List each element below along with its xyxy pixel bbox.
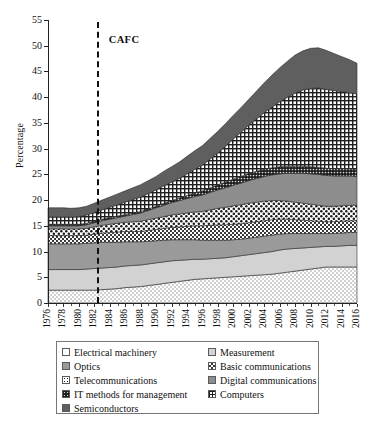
legend-item[interactable]: Measurement	[208, 345, 316, 359]
legend-swatch-icon	[208, 376, 216, 384]
legend-spacer	[208, 401, 316, 415]
plot-area: Percentage 0510152025303540455055 197619…	[0, 0, 375, 335]
legend-swatch-icon	[208, 390, 216, 398]
legend-item[interactable]: Digital communications	[208, 373, 316, 387]
legend-label: Digital communications	[220, 375, 316, 386]
x-axis-line	[48, 303, 357, 304]
legend-swatch-icon	[208, 362, 216, 370]
y-axis-line	[48, 20, 49, 303]
legend-label: IT methods for management	[74, 389, 187, 400]
legend-item[interactable]: Computers	[208, 387, 316, 401]
stacked-area-svg	[0, 0, 375, 335]
legend-item[interactable]: Optics	[62, 359, 208, 373]
legend-item[interactable]: Semiconductors	[62, 401, 208, 415]
legend-label: Electrical machinery	[74, 347, 157, 358]
legend-label: Telecommunications	[74, 375, 157, 386]
legend-item[interactable]: Electrical machinery	[62, 345, 208, 359]
legend-item[interactable]: Basic communications	[208, 359, 316, 373]
legend-item[interactable]: IT methods for management	[62, 387, 208, 401]
legend-swatch-icon	[208, 348, 216, 356]
chart-page: Percentage 0510152025303540455055 197619…	[0, 0, 375, 421]
legend-label: Semiconductors	[74, 403, 138, 414]
legend-swatch-icon	[62, 390, 70, 398]
cafc-reference-line	[97, 22, 99, 303]
legend-label: Computers	[220, 389, 264, 400]
chart-legend: Electrical machineryMeasurementOpticsBas…	[56, 341, 319, 414]
legend-swatch-icon	[62, 362, 70, 370]
legend-swatch-icon	[62, 404, 70, 412]
legend-swatch-icon	[62, 348, 70, 356]
legend-label: Measurement	[220, 347, 274, 358]
legend-label: Optics	[74, 361, 100, 372]
legend-item[interactable]: Telecommunications	[62, 373, 208, 387]
cafc-annotation-label: CAFC	[109, 34, 140, 45]
legend-label: Basic communications	[220, 361, 311, 372]
legend-swatch-icon	[62, 376, 70, 384]
